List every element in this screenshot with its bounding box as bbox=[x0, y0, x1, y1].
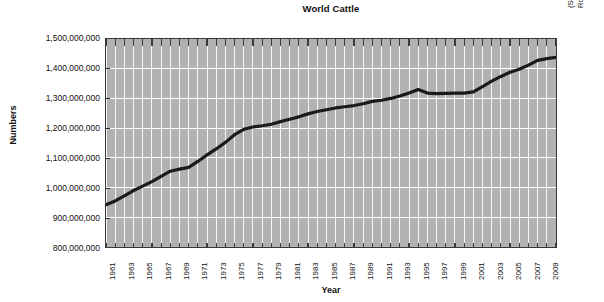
x-axis-title: Year bbox=[105, 285, 557, 295]
y-axis-tick-label: 1,500,000,000 bbox=[28, 34, 100, 43]
series-line-world-cattle bbox=[106, 57, 556, 204]
y-axis-tick-mark bbox=[105, 68, 110, 69]
x-axis-tick-label: 1965 bbox=[145, 262, 154, 280]
x-axis-tick-labels: 1961196319651967196919711973197519771979… bbox=[105, 250, 557, 284]
x-axis-tick-label: 1985 bbox=[330, 262, 339, 280]
x-axis-tick-label: 1975 bbox=[237, 262, 246, 280]
y-axis-tick-mark bbox=[105, 98, 110, 99]
y-axis-tick-label: 1,400,000,000 bbox=[28, 64, 100, 73]
x-axis-tick-label: 1971 bbox=[200, 262, 209, 280]
x-axis-tick-label: 1961 bbox=[108, 262, 117, 280]
x-axis-tick-label: 2001 bbox=[477, 262, 486, 280]
x-axis-tick-label: 1993 bbox=[403, 262, 412, 280]
y-axis-tick-label: 900,000,000 bbox=[28, 214, 100, 223]
x-axis-tick-label: 2007 bbox=[533, 262, 542, 280]
data-series-line bbox=[106, 39, 556, 247]
x-axis-tick-label: 1963 bbox=[127, 262, 136, 280]
plot-area bbox=[105, 38, 557, 248]
x-axis-tick-label: 1999 bbox=[459, 262, 468, 280]
y-axis-tick-label: 1,000,000,000 bbox=[28, 184, 100, 193]
x-axis-tick-label: 1969 bbox=[182, 262, 191, 280]
source-note: (Source: Data from UN Food and Agricultu… bbox=[566, 0, 585, 8]
y-axis-title: Numbers bbox=[8, 95, 18, 155]
x-axis-tick-label: 1995 bbox=[422, 262, 431, 280]
y-axis-tick-label: 1,300,000,000 bbox=[28, 94, 100, 103]
y-axis-tick-label: 1,100,000,000 bbox=[28, 154, 100, 163]
x-axis-tick-label: 1973 bbox=[219, 262, 228, 280]
chart-title: World Cattle bbox=[105, 3, 557, 15]
y-axis-tick-label: 800,000,000 bbox=[28, 244, 100, 253]
x-axis-tick-label: 1981 bbox=[293, 262, 302, 280]
x-axis-tick-label: 1977 bbox=[256, 262, 265, 280]
y-axis-tick-mark bbox=[105, 128, 110, 129]
x-axis-tick-label: 2003 bbox=[496, 262, 505, 280]
chart-figure: World Cattle Numbers 800,000,000900,000,… bbox=[0, 0, 604, 302]
y-axis-tick-mark bbox=[105, 158, 110, 159]
x-axis-tick-label: 1997 bbox=[440, 262, 449, 280]
x-axis-tick-label: 1989 bbox=[366, 262, 375, 280]
y-axis-tick-mark bbox=[105, 218, 110, 219]
x-axis-tick-label: 1967 bbox=[164, 262, 173, 280]
x-axis-tick-label: 2005 bbox=[514, 262, 523, 280]
x-axis-tick-label: 1991 bbox=[385, 262, 394, 280]
y-axis-tick-mark bbox=[105, 188, 110, 189]
x-axis-tick-label: 1987 bbox=[348, 262, 357, 280]
y-axis-tick-label: 1,200,000,000 bbox=[28, 124, 100, 133]
x-axis-tick-label: 1983 bbox=[311, 262, 320, 280]
x-axis-tick-label: 2009 bbox=[551, 262, 560, 280]
x-axis-tick-label: 1979 bbox=[274, 262, 283, 280]
y-axis-tick-labels: 800,000,000900,000,0001,000,000,0001,100… bbox=[25, 38, 100, 248]
